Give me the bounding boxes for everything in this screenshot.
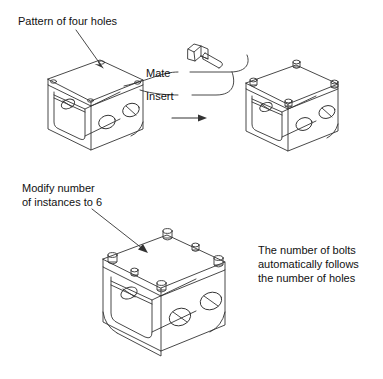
installed-bolts-right: [250, 60, 338, 107]
figure-canvas: Pattern of four holes Mate Insert Modify…: [0, 0, 383, 379]
bolt-top: [163, 229, 172, 240]
label-insert: Insert: [146, 89, 174, 103]
label-modify-instances: Modify number of instances to 6: [22, 181, 102, 209]
hex-head-bolt: [188, 44, 223, 68]
bracket-bottom: [103, 229, 225, 356]
label-mate: Mate: [146, 66, 170, 80]
assembly-arrow: [172, 115, 207, 122]
bolt-mid-front: [131, 268, 138, 276]
bracket-left: [48, 60, 143, 150]
label-pattern-of-four-holes: Pattern of four holes: [18, 14, 117, 28]
installed-bolts-bottom: [108, 229, 223, 292]
bracket-right: [246, 60, 338, 151]
top-face-holes: [51, 61, 141, 102]
label-bolts-follow-holes-note: The number of bolts automatically follow…: [258, 243, 359, 285]
leader-modify-instances: [92, 209, 148, 253]
